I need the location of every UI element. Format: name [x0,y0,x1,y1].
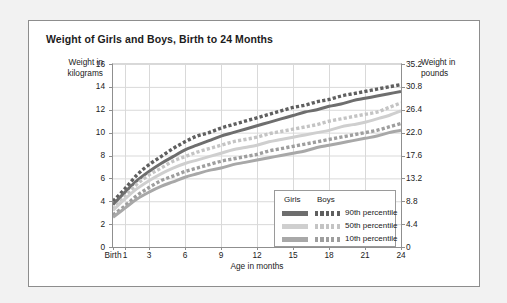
y-tick-label-left: 14 [81,81,105,91]
y-tick-label-left: 8 [81,150,105,160]
legend-label: 90th percentile [345,208,397,217]
legend-swatch-girls [282,237,308,242]
y-tick-label-left: 2 [81,219,105,229]
chart-card: Weight of Girls and Boys, Birth to 24 Mo… [28,20,480,287]
legend-header-girls: Girls [284,195,300,204]
screenshot-root: Weight of Girls and Boys, Birth to 24 Mo… [0,0,507,303]
y-tick-label-left: 4 [81,196,105,206]
x-axis-label: Age in months [112,261,402,271]
y-tick-mark-right [402,224,405,225]
y-tick-label-left: 6 [81,173,105,183]
y-tick-label-left: 10 [81,127,105,137]
y-tick-mark-right [402,133,405,134]
y-tick-label-right: 35.2 [406,59,422,69]
legend-swatch-girls [282,211,308,216]
y-tick-mark-right [402,64,405,65]
y-tick-label-right: 13.2 [406,173,422,183]
legend-label: 10th percentile [345,234,397,243]
y-tick-label-right: 17.6 [406,150,422,160]
y-axis-label-right: Weight in pounds [421,57,481,79]
y-tick-mark-right [402,156,405,157]
y-tick-label-right: 22.0 [406,127,422,137]
y-tick-label-left: 12 [81,104,105,114]
legend-swatch-boys [315,211,341,216]
legend-swatch-boys [315,237,341,242]
legend-swatch-boys [315,224,341,229]
y-tick-mark-right [402,247,405,248]
page-title: Weight of Girls and Boys, Birth to 24 Mo… [46,33,273,45]
legend-item: 10th percentile [275,233,395,246]
legend-item: 90th percentile [275,207,395,220]
y-tick-label-right: 30.8 [406,81,422,91]
legend-label: 50th percentile [345,221,397,230]
y-tick-mark-right [402,110,405,111]
y-tick-label-right: 26.4 [406,104,422,114]
legend-item: 50th percentile [275,220,395,233]
x-tick-label: 24 [379,250,423,260]
y-tick-mark-right [402,87,405,88]
y-tick-label-right: 8.8 [406,196,418,206]
y-tick-label-left: 16 [81,59,105,69]
legend-header-boys: Boys [317,195,335,204]
y-tick-mark-right [402,178,405,179]
y-tick-label-right: 4.4 [406,219,418,229]
y-tick-mark-right [402,201,405,202]
legend-swatch-girls [282,224,308,229]
chart-legend: Girls Boys 90th percentile50th percentil… [274,190,396,247]
